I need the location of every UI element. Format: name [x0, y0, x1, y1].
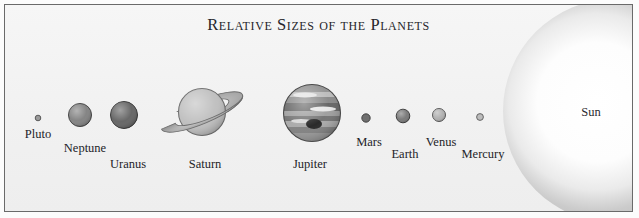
- label-venus: Venus: [426, 135, 457, 150]
- figure-container: Relative Sizes of the Planets: [0, 0, 639, 218]
- figure-plate-background: [5, 5, 632, 211]
- label-mercury: Mercury: [461, 147, 504, 162]
- label-saturn: Saturn: [189, 157, 222, 172]
- label-jupiter: Jupiter: [293, 157, 327, 172]
- label-mars: Mars: [356, 135, 382, 150]
- label-neptune: Neptune: [64, 141, 106, 156]
- label-uranus: Uranus: [110, 157, 146, 172]
- label-pluto: Pluto: [25, 127, 51, 142]
- label-earth: Earth: [391, 147, 418, 162]
- label-sun: Sun: [581, 105, 600, 120]
- page-title: Relative Sizes of the Planets: [5, 15, 632, 35]
- figure-frame: Relative Sizes of the Planets: [4, 4, 633, 212]
